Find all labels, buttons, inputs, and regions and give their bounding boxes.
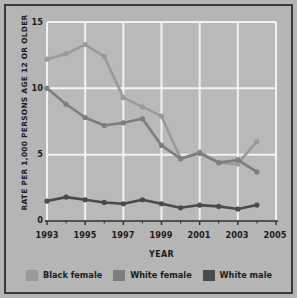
- data-point-marker: [254, 169, 259, 174]
- legend-label-white-female: White female: [130, 270, 192, 280]
- legend-item-white-female[interactable]: White female: [113, 270, 192, 281]
- data-point-marker: [102, 200, 107, 205]
- y-axis-title: RATE PER 1,000 PERSONS AGE 12 OR OLDER: [20, 13, 29, 213]
- data-point-marker: [216, 204, 221, 209]
- data-point-marker: [159, 114, 164, 119]
- y-tick-label-10: 10: [21, 83, 43, 93]
- data-point-marker: [216, 160, 221, 165]
- data-point-marker: [83, 197, 88, 202]
- data-point-marker: [254, 202, 259, 207]
- data-point-marker: [44, 57, 49, 62]
- legend-item-white-male[interactable]: White male: [203, 270, 272, 281]
- data-point-marker: [83, 42, 88, 47]
- chart-legend: Black female White female White male: [18, 266, 280, 284]
- data-point-marker: [235, 157, 240, 162]
- data-point-marker: [83, 115, 88, 120]
- data-point-marker: [63, 102, 68, 107]
- legend-label-white-male: White male: [220, 270, 272, 280]
- legend-swatch-icon-white-female: [113, 270, 125, 281]
- data-point-marker: [102, 54, 107, 59]
- data-point-marker: [235, 206, 240, 211]
- plot-wrapper: RATE PER 1,000 PERSONS AGE 12 OR OLDER Y…: [0, 0, 297, 298]
- legend-label-black-female: Black female: [43, 270, 102, 280]
- data-point-marker: [197, 151, 202, 156]
- data-point-marker: [121, 201, 126, 206]
- data-point-marker: [44, 199, 49, 204]
- data-point-marker: [63, 195, 68, 200]
- y-tick-label-5: 5: [21, 149, 43, 159]
- data-point-marker: [121, 95, 126, 100]
- x-tick-label-1995: 1995: [69, 230, 101, 240]
- data-point-marker: [63, 51, 68, 56]
- x-tick-label-2001: 2001: [183, 230, 215, 240]
- x-tick-label-1997: 1997: [107, 230, 139, 240]
- legend-swatch-icon-white-male: [203, 270, 215, 281]
- data-point-marker: [159, 201, 164, 206]
- x-tick-label-1999: 1999: [145, 230, 177, 240]
- data-point-marker: [140, 197, 145, 202]
- legend-swatch-icon-black-female: [26, 270, 38, 281]
- y-tick-label-15: 15: [21, 17, 43, 27]
- x-tick-label-2003: 2003: [221, 230, 253, 240]
- legend-item-black-female[interactable]: Black female: [26, 270, 102, 281]
- data-point-marker: [140, 116, 145, 121]
- chart-figure: RATE PER 1,000 PERSONS AGE 12 OR OLDER Y…: [0, 0, 297, 298]
- x-tick-label-1993: 1993: [31, 230, 63, 240]
- data-point-marker: [178, 156, 183, 161]
- data-point-marker: [121, 120, 126, 125]
- data-point-marker: [44, 86, 49, 91]
- data-point-marker: [102, 123, 107, 128]
- x-tick-label-2005: 2005: [259, 230, 291, 240]
- data-point-marker: [178, 205, 183, 210]
- data-point-marker: [159, 143, 164, 148]
- x-axis-title: YEAR: [47, 250, 276, 259]
- data-point-marker: [140, 104, 145, 109]
- data-point-marker: [254, 139, 259, 144]
- y-tick-label-0: 0: [21, 215, 43, 225]
- data-point-marker: [197, 202, 202, 207]
